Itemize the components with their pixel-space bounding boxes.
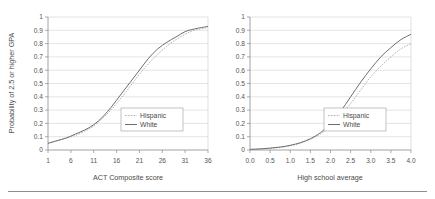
legend-label-hispanic: Hispanic [140, 112, 167, 120]
bottom-divider-rule [8, 191, 427, 192]
y-tick-label: 0 [241, 146, 245, 153]
x-tick-label: 31 [181, 157, 189, 164]
y-tick-marks [247, 17, 250, 150]
y-tick-label: 0 [39, 146, 43, 153]
y-tick-label: 0.4 [34, 93, 43, 100]
y-tick-label: 0.7 [34, 53, 43, 60]
chart-panel-hsgpa: 1 0.9 0.8 0.7 0.6 0.5 0.4 0.3 0.2 0.1 0 … [218, 0, 435, 199]
legend-label-hispanic: Hispanic [343, 112, 370, 120]
legend: Hispanic White [121, 108, 183, 131]
x-axis-title: High school average [297, 173, 363, 182]
x-tick-labels: 1 6 11 16 21 26 31 36 [46, 157, 212, 164]
y-tick-labels: 1 0.9 0.8 0.7 0.6 0.5 0.4 0.3 0.2 0.1 0 [236, 13, 246, 153]
y-tick-label: 0.9 [236, 27, 245, 34]
y-tick-label: 0.8 [34, 40, 43, 47]
x-tick-label: 1 [46, 157, 50, 164]
y-tick-label: 0.6 [34, 67, 43, 74]
x-axis-title: ACT Composite score [93, 173, 163, 182]
legend: Hispanic White [324, 108, 386, 131]
chart-panel-act: 1 0.9 0.8 0.7 0.6 0.5 0.4 0.3 0.2 0.1 0 … [0, 0, 218, 199]
x-tick-marks [48, 150, 208, 153]
x-tick-label: 2.0 [326, 157, 335, 164]
x-tick-label: 26 [159, 157, 167, 164]
x-tick-label: 21 [136, 157, 144, 164]
y-tick-label: 0.1 [236, 133, 245, 140]
x-tick-label: 1.5 [306, 157, 315, 164]
legend-label-white: White [140, 121, 158, 128]
x-tick-label: 36 [204, 157, 212, 164]
y-tick-label: 0.6 [236, 67, 245, 74]
y-tick-label: 0.9 [34, 27, 43, 34]
x-tick-labels: 0.0 0.5 1.0 1.5 2.0 2.5 3.0 3.5 4.0 [245, 157, 415, 164]
x-tick-label: 1.0 [286, 157, 295, 164]
legend-label-white: White [343, 121, 361, 128]
act-chart-svg: 1 0.9 0.8 0.7 0.6 0.5 0.4 0.3 0.2 0.1 0 … [0, 0, 218, 199]
y-tick-label: 0.4 [236, 93, 245, 100]
x-tick-label: 16 [113, 157, 121, 164]
series-line-hispanic [250, 44, 411, 150]
y-tick-label: 0.7 [236, 53, 245, 60]
hsgpa-chart-svg: 1 0.9 0.8 0.7 0.6 0.5 0.4 0.3 0.2 0.1 0 … [218, 0, 435, 199]
x-tick-label: 3.0 [366, 157, 375, 164]
figure-root: 1 0.9 0.8 0.7 0.6 0.5 0.4 0.3 0.2 0.1 0 … [0, 0, 435, 199]
y-tick-label: 0.2 [236, 120, 245, 127]
x-tick-label: 2.5 [346, 157, 355, 164]
y-tick-label: 0.2 [34, 120, 43, 127]
y-tick-label: 0.8 [236, 40, 245, 47]
x-tick-marks [250, 150, 411, 153]
series-line-white [250, 34, 411, 149]
y-tick-label: 0.1 [34, 133, 43, 140]
y-tick-label: 0.5 [236, 80, 245, 87]
y-tick-label: 0.3 [236, 106, 245, 113]
y-tick-label: 0.3 [34, 106, 43, 113]
x-tick-label: 0.5 [266, 157, 275, 164]
x-tick-label: 3.5 [386, 157, 395, 164]
x-tick-label: 4.0 [406, 157, 415, 164]
y-tick-label: 1 [241, 13, 245, 20]
y-tick-labels: 1 0.9 0.8 0.7 0.6 0.5 0.4 0.3 0.2 0.1 0 [34, 13, 44, 153]
y-tick-marks [45, 17, 48, 150]
x-tick-label: 6 [69, 157, 73, 164]
y-axis-title: Probability of 2.5 or higher GPA [7, 33, 16, 134]
y-tick-label: 1 [39, 13, 43, 20]
x-tick-label: 11 [90, 157, 97, 164]
x-tick-label: 0.0 [245, 157, 254, 164]
y-tick-label: 0.5 [34, 80, 43, 87]
